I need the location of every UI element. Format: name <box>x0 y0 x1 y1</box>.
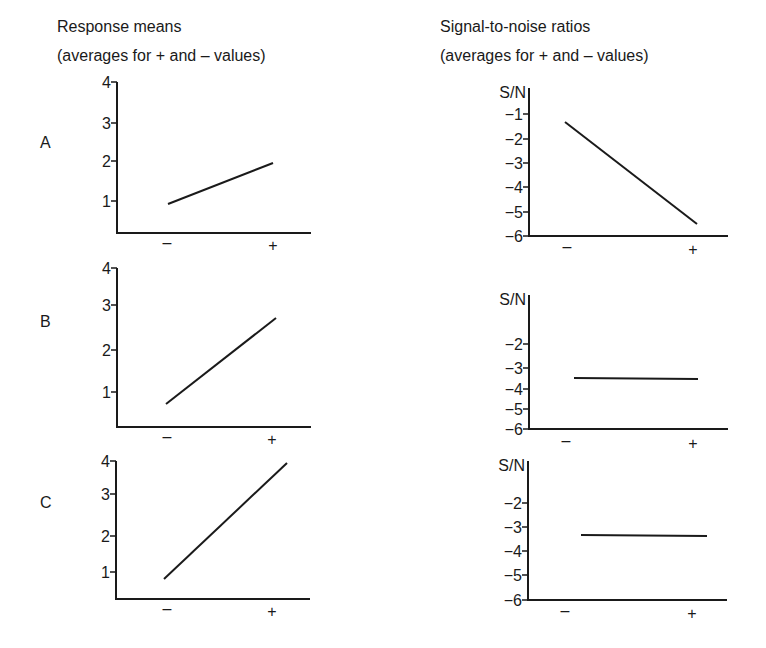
chart-grid: 1234–+−1−2−3−4−5−6S/N–+1234–+−2−3−4−5−6S… <box>0 0 766 648</box>
data-line <box>168 163 273 204</box>
x-tick-label-minus: – <box>561 602 570 619</box>
y-tick-label: 4 <box>102 74 111 91</box>
y-tick-label: 1 <box>101 564 110 581</box>
x-tick-label-plus: + <box>267 431 276 448</box>
y-tick-label: 2 <box>102 153 111 170</box>
y-axis-label-sn: S/N <box>498 457 525 474</box>
x-tick-label-plus: + <box>687 605 696 622</box>
y-tick-label: 2 <box>102 342 111 359</box>
x-tick-label-plus: + <box>688 435 697 452</box>
y-tick-label: −3 <box>504 519 522 536</box>
y-tick-label: 3 <box>102 297 111 314</box>
x-tick-label-minus: – <box>163 600 172 617</box>
y-tick-label: −5 <box>505 204 523 221</box>
y-tick-label: −6 <box>505 228 523 245</box>
y-tick-label: −6 <box>504 592 522 609</box>
data-line <box>581 535 707 536</box>
y-tick-label: 2 <box>101 528 110 545</box>
y-tick-label: 3 <box>102 115 111 132</box>
y-axis-label-sn: S/N <box>499 291 526 308</box>
chart-panel-c-mean: 1234–+ <box>101 453 310 620</box>
x-tick-label-minus: – <box>163 428 172 445</box>
y-tick-label: 4 <box>101 453 110 470</box>
chart-panel-b-sn: −2−3−4−5−6S/N–+ <box>499 291 728 452</box>
y-tick-label: 1 <box>102 384 111 401</box>
y-tick-label: 3 <box>101 486 110 503</box>
chart-panel-a-mean: 1234–+ <box>102 74 311 254</box>
y-tick-label: 4 <box>102 260 111 277</box>
y-tick-label: −3 <box>505 360 523 377</box>
y-tick-label: −2 <box>504 495 522 512</box>
chart-panel-a-sn: −1−2−3−4−5−6S/N–+ <box>499 84 728 258</box>
chart-panel-c-sn: −2−3−4−5−6S/N–+ <box>498 457 727 622</box>
y-tick-label: 1 <box>102 193 111 210</box>
y-tick-label: −2 <box>505 131 523 148</box>
chart-panel-b-mean: 1234–+ <box>102 260 311 448</box>
y-tick-label: −4 <box>505 179 523 196</box>
data-line <box>574 378 698 379</box>
x-tick-label-minus: – <box>562 432 571 449</box>
y-axis-label-sn: S/N <box>499 84 526 101</box>
y-tick-label: −5 <box>504 567 522 584</box>
y-tick-label: −2 <box>505 336 523 353</box>
x-tick-label-minus: – <box>163 234 172 251</box>
x-tick-label-plus: + <box>268 237 277 254</box>
data-line <box>164 463 287 579</box>
y-tick-label: −6 <box>505 421 523 438</box>
y-tick-label: −4 <box>504 543 522 560</box>
x-tick-label-plus: + <box>688 241 697 258</box>
x-tick-label-minus: – <box>563 238 572 255</box>
y-tick-label: −5 <box>505 401 523 418</box>
x-tick-label-plus: + <box>267 603 276 620</box>
data-line <box>166 318 276 404</box>
y-tick-label: −4 <box>505 381 523 398</box>
y-tick-label: −3 <box>505 155 523 172</box>
data-line <box>565 122 697 224</box>
y-tick-label: −1 <box>505 106 523 123</box>
